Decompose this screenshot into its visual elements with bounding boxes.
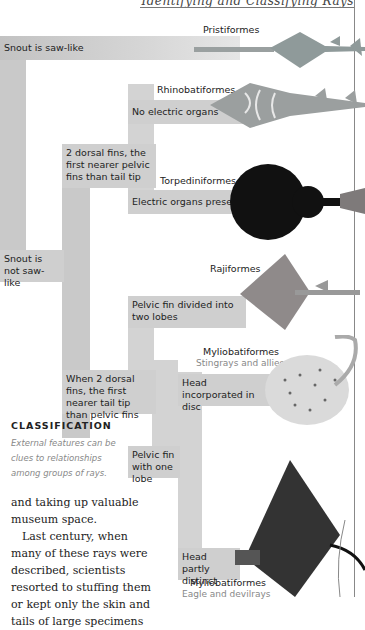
body-paragraph: and taking up valuable museum space. (11, 494, 161, 528)
sidebar-title: CLASSIFICATION (11, 420, 112, 431)
skate-illustration (240, 252, 365, 332)
node-label: Head incorporated in disc (182, 377, 254, 412)
header-rule (140, 7, 354, 8)
node-dorsal-nearer-tail: When 2 dorsal fins, the first nearer tai… (62, 370, 156, 414)
node-pelvic-one: Pelvic fin with one lobe (128, 446, 180, 478)
node-pelvic-two: Pelvic fin divided into two lobes (128, 296, 246, 328)
node-label: Pelvic fin divided into two lobes (132, 299, 233, 322)
node-label: Snout is not saw-like (4, 253, 45, 288)
node-label: When 2 dorsal fins, the first nearer tai… (66, 373, 139, 420)
sidebar-caption: External features can be clues to relati… (11, 436, 121, 481)
body-text: and taking up valuable museum space. Las… (11, 494, 161, 630)
sawfish-illustration (190, 28, 365, 73)
node-label: 2 dorsal fins, the first nearer pelvic f… (66, 147, 150, 182)
node-head-in-disc: Head incorporated in disc (178, 374, 274, 406)
node-dorsal-nearer-pelvic: 2 dorsal fins, the first nearer pelvic f… (62, 144, 156, 188)
node-label: Pelvic fin with one lobe (132, 449, 174, 484)
taxon-torpediniformes: Torpediniformes (160, 175, 236, 186)
guitarfish-illustration (205, 78, 365, 133)
stingray-illustration (265, 335, 365, 430)
node-label: Snout is saw-like (4, 42, 84, 53)
node-snout-not-saw: Snout is not saw-like (0, 250, 64, 282)
electric-ray-illustration (228, 162, 365, 242)
eagle-ray-illustration (235, 460, 365, 597)
node-label: Electric organs present (132, 196, 242, 207)
body-paragraph: Last century, when many of these rays we… (11, 528, 161, 630)
trunk-bar (0, 36, 26, 276)
node-head-distinct: Head partly distinct (178, 548, 240, 580)
